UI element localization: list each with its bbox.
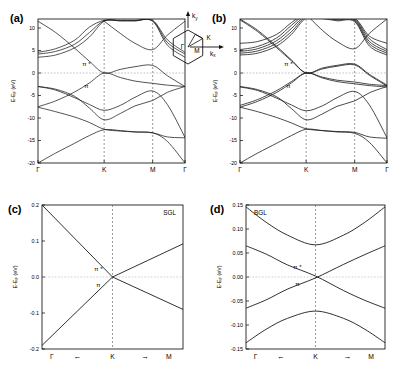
band-label: π * [82, 60, 91, 67]
x-arrow-left-icon: ← [73, 352, 81, 361]
y-tick-label: 0.00 [233, 274, 244, 280]
y-tick-label: 5 [234, 47, 237, 53]
y-axis-label: E-EF (eV) [12, 265, 19, 288]
panel-b: (b)1050-5-10-15-20ΓKMΓπ *πE-EF (eV) [200, 0, 402, 191]
x-arrow-right-icon: → [344, 352, 352, 361]
band-curve [240, 107, 387, 138]
x-tick-label: K [102, 166, 107, 173]
band-curve [240, 129, 387, 163]
band-label: π * [293, 263, 302, 270]
svg-text:E-EF (eV): E-EF (eV) [216, 265, 223, 288]
band-curve [38, 129, 185, 163]
y-tick-label: 0.05 [233, 250, 244, 256]
y-tick-label: 0 [234, 70, 237, 76]
y-tick-label: -20 [230, 160, 238, 166]
y-tick-label: -0.15 [231, 346, 243, 352]
y-tick-label: -15 [230, 137, 238, 143]
y-tick-label: -0.2 [30, 346, 39, 352]
ky-axis-label: ky [192, 12, 198, 21]
y-tick-label: -20 [28, 160, 36, 166]
y-tick-label: 10 [29, 25, 35, 31]
band-label: π [295, 280, 299, 287]
y-tick-label: 0.15 [233, 202, 244, 208]
panel-tag: (c) [8, 203, 22, 215]
x-tick-label: Γ [36, 166, 40, 173]
m-point-label: M [194, 47, 199, 54]
x-tick-label-k: K [110, 353, 115, 360]
gamma-point-label: Γ [181, 43, 185, 50]
y-tick-label: -0.10 [231, 322, 243, 328]
y-tick-label: 0 [32, 70, 35, 76]
y-tick-label: 0.2 [32, 202, 40, 208]
x-tick-label: M [352, 166, 358, 173]
x-tick-label: M [150, 166, 156, 173]
panel-c-plot: (c)0.20.10.0-0.1-0.2SGLπ *πΓ←K→ME-EF (eV… [0, 191, 200, 383]
band-label: π [96, 281, 100, 288]
y-tick-label: 10 [231, 25, 237, 31]
panel-c: (c)0.20.10.0-0.1-0.2SGLπ *πΓ←K→ME-EF (eV… [0, 191, 200, 383]
y-axis-label: E-EF (eV) [212, 80, 219, 103]
system-label: SGL [163, 209, 176, 216]
band-curve [240, 73, 387, 107]
figure-root: (a)1050-5-10-15-20ΓKMΓπ *πE-EF (eV) ΓMKk… [0, 0, 402, 383]
x-tick-label-m: M [368, 353, 374, 360]
panel-d: (d)0.150.100.050.00-0.05-0.10-0.15BGLπ *… [200, 191, 402, 383]
band-curve [42, 277, 183, 345]
y-tick-label: -5 [30, 92, 35, 98]
band-label: π * [94, 265, 103, 272]
panel-tag: (a) [10, 12, 24, 24]
svg-text:E-EF (eV): E-EF (eV) [212, 80, 219, 103]
x-arrow-right-icon: → [141, 352, 149, 361]
y-tick-label: 0.0 [32, 274, 40, 280]
x-tick-label: Γ [385, 166, 389, 173]
band-label: π * [284, 60, 293, 67]
y-tick-label: -15 [28, 137, 36, 143]
x-tick-label-gamma: Γ [254, 353, 258, 360]
band-curve [38, 107, 185, 138]
y-tick-label: 0.10 [233, 226, 244, 232]
x-tick-label: K [304, 166, 309, 173]
panel-tag: (d) [210, 203, 224, 215]
y-tick-label: 5 [32, 47, 35, 53]
y-tick-label: -10 [230, 115, 238, 121]
y-tick-label: 0.1 [32, 238, 40, 244]
x-tick-label-m: M [166, 353, 172, 360]
x-tick-label: Γ [238, 166, 242, 173]
y-tick-label: -0.1 [30, 310, 39, 316]
y-tick-label: -5 [232, 92, 237, 98]
band-curve [240, 20, 387, 86]
x-tick-label-gamma: Γ [50, 353, 54, 360]
panel-b-plot: (b)1050-5-10-15-20ΓKMΓπ *πE-EF (eV) [200, 0, 402, 191]
svg-text:E-EF (eV): E-EF (eV) [10, 80, 17, 103]
y-tick-label: -0.05 [231, 298, 243, 304]
band-curve [240, 87, 387, 120]
svg-text:E-EF (eV): E-EF (eV) [12, 265, 19, 288]
x-tick-label: Γ [183, 166, 187, 173]
x-arrow-left-icon: ← [277, 352, 285, 361]
y-tick-label: -10 [28, 115, 36, 121]
band-label: π [286, 82, 290, 89]
panel-d-plot: (d)0.150.100.050.00-0.05-0.10-0.15BGLπ *… [200, 191, 402, 383]
y-axis-label: E-EF (eV) [10, 80, 17, 103]
x-tick-label-k: K [313, 353, 318, 360]
y-axis-label: E-EF (eV) [216, 265, 223, 288]
band-curves [240, 13, 387, 163]
panel-tag: (b) [212, 12, 226, 24]
band-curve [240, 73, 387, 106]
band-label: π [84, 82, 88, 89]
ky-arrowhead-icon [186, 11, 190, 16]
